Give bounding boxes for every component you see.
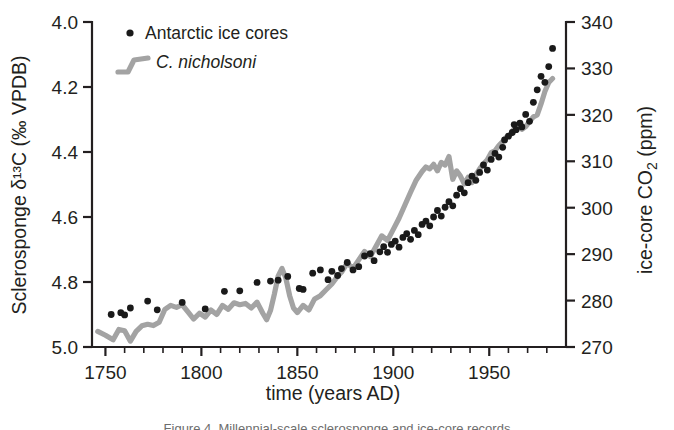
data-series-layer [98,45,556,341]
y-right-tick-label-310: 310 [581,151,613,172]
data-point [449,202,456,209]
data-point [334,272,341,279]
x-tick-label-1750: 1750 [84,362,126,383]
data-point [300,286,307,293]
data-point [495,154,502,161]
data-point [355,263,362,270]
data-point [317,267,324,274]
data-point [338,265,345,272]
data-point [392,238,399,245]
data-point [380,243,387,250]
data-point [434,207,441,214]
data-point [442,204,449,211]
data-point [127,305,134,312]
data-point [526,118,533,125]
data-point [476,169,483,176]
data-point [465,179,472,186]
data-point [144,298,151,305]
y-right-tick-label-280: 280 [581,291,613,312]
data-point [384,249,391,256]
data-point [108,311,115,318]
data-point [499,144,506,151]
y-right-tick-label-340: 340 [581,12,613,33]
y-axis-right-title: ice-core CO2 (ppm) [634,106,660,274]
data-point [472,177,479,184]
y-left-tick-label-5.0: 5.0 [52,337,78,358]
data-point [518,124,525,131]
data-point [284,273,291,280]
data-point [530,99,537,106]
y-right-tick-label-330: 330 [581,58,613,79]
data-point [367,250,374,257]
data-point [396,244,403,251]
y-right-tick-label-270: 270 [581,337,613,358]
chart-legend: Antarctic ice cores C. nicholsoni [118,23,288,72]
data-point [309,270,316,277]
x-tick-label-1900: 1900 [372,362,414,383]
sclerosponge-co2-chart: 17501800185019001950 4.04.24.44.64.85.0 … [0,0,674,430]
x-axis-ticks [105,347,546,356]
data-point [236,287,243,294]
x-tick-label-1950: 1950 [468,362,510,383]
data-point [371,257,378,264]
y-axis-left-title: Sclerosponge δ¹³C (‰ VPDB) [8,55,30,314]
data-point [179,299,186,306]
data-point [328,268,335,275]
legend-label-antarctic-ice-cores: Antarctic ice cores [145,23,288,43]
y-left-tick-label-4.8: 4.8 [52,272,78,293]
series-line-c-nicholsoni [98,79,553,342]
data-point [267,278,274,285]
data-point [426,222,433,229]
data-point [522,111,529,118]
data-point [430,214,437,221]
data-point [254,279,261,286]
data-point [221,288,228,295]
data-point [325,276,332,283]
data-point [541,79,548,86]
y-left-tick-label-4.6: 4.6 [52,207,78,228]
data-point [545,63,552,70]
data-point [415,231,422,238]
data-point [538,73,545,80]
y-axis-left-ticks [83,22,92,347]
data-point [534,86,541,93]
data-point [484,167,491,174]
data-point [275,277,282,284]
legend-label-c-nicholsoni: C. nicholsoni [156,52,257,72]
data-point [407,236,414,243]
y-left-tick-label-4.4: 4.4 [52,142,79,163]
y-right-tick-label-300: 300 [581,198,613,219]
legend-marker-line [118,58,148,72]
y-right-tick-label-290: 290 [581,244,613,265]
y-right-tick-label-320: 320 [581,105,613,126]
data-point [350,267,357,274]
y-axis-right-ticks [566,22,575,347]
x-tick-label-1850: 1850 [276,362,318,383]
x-axis-title: time (years AD) [266,382,400,404]
figure-container: 17501800185019001950 4.04.24.44.64.85.0 … [0,0,674,430]
data-point [154,306,161,313]
data-point [438,213,445,220]
data-point [202,306,209,313]
data-point [461,189,468,196]
data-point [453,192,460,199]
y-axis-left-tick-labels: 4.04.24.44.64.85.0 [52,12,79,358]
y-axis-right-tick-labels: 270280290300310320330340 [581,12,613,358]
data-point [403,230,410,237]
legend-marker-dot [126,29,133,36]
figure-caption: Figure 4. Millennial-scale sclerosponge … [0,418,674,430]
series-points-antarctic-ice-cores [108,45,556,318]
y-left-tick-label-4.2: 4.2 [52,77,78,98]
data-point [549,45,556,52]
y-left-tick-label-4.0: 4.0 [52,12,78,33]
x-axis-tick-labels: 17501800185019001950 [84,362,510,383]
data-point [121,312,128,319]
data-point [344,259,351,266]
data-point [488,156,495,163]
x-tick-label-1800: 1800 [180,362,222,383]
